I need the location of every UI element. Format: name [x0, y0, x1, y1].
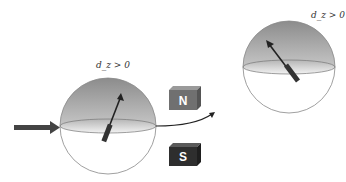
- right-bloch-sphere: [243, 21, 335, 113]
- north-magnet: N: [169, 86, 201, 110]
- svg-text:N: N: [179, 94, 188, 108]
- left-bloch-sphere: [60, 78, 156, 174]
- svg-text:S: S: [179, 150, 187, 164]
- stern-gerlach-diagram: N S: [0, 0, 346, 182]
- right-sphere-label: d_z > 0: [311, 10, 345, 20]
- south-magnet: S: [169, 143, 201, 166]
- deflected-beam: [156, 112, 215, 126]
- left-sphere-label: d_z > 0: [96, 60, 130, 70]
- incoming-arrow-icon: [14, 121, 60, 134]
